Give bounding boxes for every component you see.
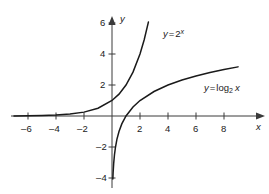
y-tick-label-6: 6 xyxy=(100,18,105,28)
x-tick-label-2: 2 xyxy=(137,124,142,134)
curve-exponential xyxy=(14,22,148,116)
curve-label-logarithmic: y=log2x xyxy=(204,83,240,94)
x-axis-label: x xyxy=(256,122,261,132)
x-tick-label-4: 4 xyxy=(165,124,170,134)
log-label-fn: log xyxy=(216,82,229,93)
y-tick-label-4: 4 xyxy=(100,49,105,59)
y-tick-label-neg4: –4 xyxy=(96,173,107,183)
log-label-arg: x xyxy=(233,82,240,93)
y-axis-label: y xyxy=(120,14,125,24)
curve-label-exponential: y=2x xyxy=(163,28,184,39)
x-tick-label-neg2: –2 xyxy=(77,124,88,134)
x-tick-label-6: 6 xyxy=(193,124,198,134)
y-tick-label-2: 2 xyxy=(100,80,105,90)
x-tick-label-neg6: –6 xyxy=(21,124,32,134)
x-tick-label-8: 8 xyxy=(221,124,226,134)
exp-label-exponent: x xyxy=(181,28,185,35)
graph-figure: y x 6 4 2 –2 –4 –6 –4 –2 2 4 6 8 y=2x y=… xyxy=(0,0,269,194)
x-tick-label-neg4: –4 xyxy=(49,124,60,134)
y-tick-label-neg2: –2 xyxy=(96,142,107,152)
plot-area xyxy=(0,0,269,194)
